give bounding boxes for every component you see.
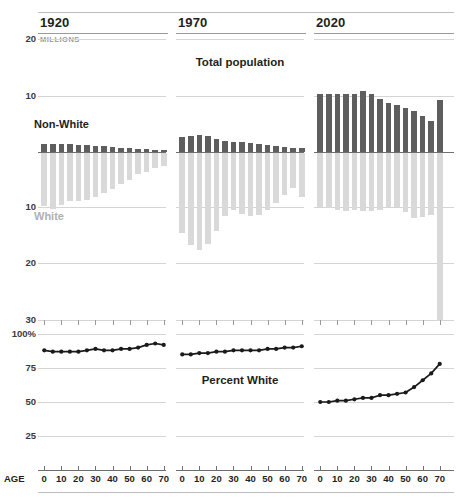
data-point-marker	[85, 348, 89, 352]
data-point-marker	[266, 347, 270, 351]
data-point-marker	[344, 399, 348, 403]
data-point-marker	[145, 343, 149, 347]
data-point-marker	[327, 400, 331, 404]
data-point-marker	[223, 350, 227, 354]
data-point-marker	[197, 351, 201, 355]
data-point-marker	[283, 346, 287, 350]
data-point-marker	[240, 348, 244, 352]
data-point-marker	[352, 397, 356, 401]
data-point-marker	[429, 371, 433, 375]
data-point-marker	[248, 348, 252, 352]
data-point-marker	[378, 393, 382, 397]
data-point-marker	[42, 348, 46, 352]
data-point-marker	[76, 350, 80, 354]
data-point-marker	[335, 399, 339, 403]
data-point-marker	[257, 348, 261, 352]
data-point-marker	[206, 351, 210, 355]
percent-white-lines	[0, 0, 463, 501]
data-point-marker	[128, 347, 132, 351]
data-point-marker	[136, 346, 140, 350]
data-point-marker	[119, 347, 123, 351]
data-point-marker	[361, 396, 365, 400]
data-point-marker	[291, 346, 295, 350]
data-point-marker	[51, 350, 55, 354]
data-point-marker	[231, 348, 235, 352]
data-point-marker	[180, 352, 184, 356]
data-point-marker	[300, 344, 304, 348]
data-point-marker	[421, 378, 425, 382]
data-point-marker	[438, 362, 442, 366]
data-point-marker	[386, 393, 390, 397]
data-point-marker	[369, 396, 373, 400]
data-point-marker	[412, 385, 416, 389]
data-point-marker	[68, 350, 72, 354]
data-point-marker	[404, 390, 408, 394]
data-point-marker	[274, 347, 278, 351]
data-point-marker	[102, 348, 106, 352]
data-point-marker	[59, 350, 63, 354]
data-point-marker	[93, 347, 97, 351]
data-point-marker	[162, 343, 166, 347]
data-point-marker	[189, 352, 193, 356]
figure-root: 1920 1970 2020 MILLIONS Total population…	[0, 0, 463, 501]
data-point-marker	[318, 400, 322, 404]
data-point-marker	[214, 350, 218, 354]
data-point-marker	[110, 348, 114, 352]
data-point-marker	[153, 341, 157, 345]
data-point-marker	[395, 392, 399, 396]
